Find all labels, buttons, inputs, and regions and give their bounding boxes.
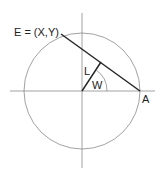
- label-segment-l: L: [84, 65, 90, 77]
- label-angle-w: W: [92, 79, 103, 91]
- label-point-a: A: [142, 93, 150, 105]
- label-point-e: E = (X,Y): [14, 26, 59, 38]
- circle-diagram: E = (X,Y) L W A: [0, 0, 161, 175]
